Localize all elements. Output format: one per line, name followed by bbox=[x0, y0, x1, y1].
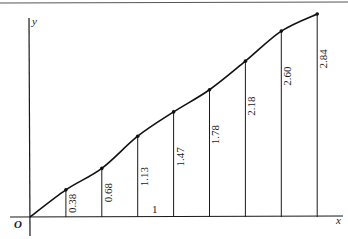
x-axis-label: x bbox=[335, 214, 341, 226]
ordinate-value-label: 2.18 bbox=[245, 96, 257, 116]
top-border-line bbox=[0, 2, 348, 3]
curve-point bbox=[136, 134, 140, 138]
ordinate-value-label: 1.78 bbox=[210, 125, 222, 145]
interval-label: 1 bbox=[152, 203, 158, 215]
x-axis bbox=[10, 216, 343, 217]
curve-point bbox=[100, 167, 104, 171]
curve-point bbox=[244, 59, 248, 63]
ordinate-value-label: 0.68 bbox=[102, 183, 114, 203]
curve-point bbox=[208, 88, 212, 92]
curve-point bbox=[280, 29, 284, 33]
curve-point bbox=[315, 12, 319, 16]
ordinate-value-label: 1.47 bbox=[174, 147, 186, 167]
ordinate-value-label: 2.84 bbox=[317, 49, 329, 69]
ordinate-labels: 0.380.681.131.471.782.182.602.84 bbox=[66, 49, 329, 213]
origin-label: O bbox=[14, 218, 22, 230]
y-axis-label: y bbox=[31, 15, 37, 27]
ordinate-value-label: 1.13 bbox=[138, 166, 150, 186]
curve-point bbox=[64, 188, 68, 192]
y-axis bbox=[29, 18, 30, 236]
ordinate-value-label: 0.38 bbox=[66, 193, 78, 213]
curve-point bbox=[172, 110, 176, 114]
ordinate-value-label: 2.60 bbox=[281, 66, 293, 86]
ordinate-chart: y x O 1 0.380.681.131.471.782.182.602.84 bbox=[0, 0, 348, 239]
